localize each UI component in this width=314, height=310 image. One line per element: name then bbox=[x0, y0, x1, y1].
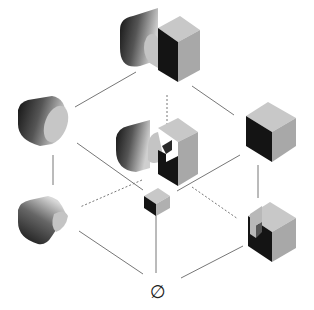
node-left-low-cylinder-cut bbox=[18, 196, 68, 244]
node-center-cylinder-cube-notched bbox=[116, 118, 198, 186]
edges bbox=[53, 72, 258, 278]
edge-top-right bbox=[192, 86, 234, 115]
edge-top-left bbox=[75, 72, 136, 107]
edge-leftlow-bottom bbox=[79, 231, 143, 274]
node-left-mid-cylinder bbox=[18, 96, 73, 146]
edge-rightlow-bottom bbox=[181, 246, 243, 278]
node-right-low-cube-notched bbox=[248, 202, 296, 262]
edge-center-rightlow bbox=[192, 187, 238, 219]
node-center-low-small-cube bbox=[144, 188, 170, 216]
node-right-mid-cube bbox=[246, 102, 296, 162]
empty-set-label: ∅ bbox=[150, 281, 166, 302]
edge-center-leftlow bbox=[80, 180, 142, 207]
lattice-diagram: ∅ bbox=[0, 0, 314, 310]
node-top-cylinder-cube-union bbox=[120, 8, 200, 82]
